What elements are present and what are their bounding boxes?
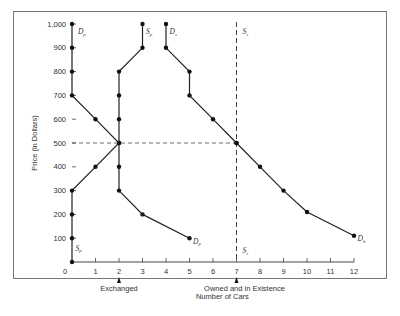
x-tick-label: 6	[211, 267, 215, 276]
data-point	[187, 236, 191, 240]
curve-Ds	[166, 24, 354, 236]
data-point	[258, 165, 262, 169]
data-point	[70, 212, 74, 216]
data-point	[140, 46, 144, 50]
y-tick-label: 500	[53, 139, 66, 148]
curve-label-Sp: Sp	[76, 244, 83, 254]
data-point	[211, 117, 215, 121]
data-point	[70, 260, 74, 264]
x-annotation: Exchanged	[100, 284, 138, 293]
y-tick-label: 300	[53, 186, 66, 195]
curve-label-Ss: Ss	[242, 246, 248, 256]
data-point	[70, 46, 74, 50]
curve-label-Dp: Dp	[192, 237, 201, 247]
data-point	[140, 22, 144, 26]
data-point	[117, 188, 121, 192]
curve-label-Ss: Ss	[242, 27, 248, 37]
x-tick-label: 8	[258, 267, 262, 276]
y-tick-label: 200	[53, 210, 66, 219]
data-point	[70, 188, 74, 192]
y-tick-label: 400	[53, 162, 66, 171]
x-tick-label: 0	[63, 267, 67, 276]
data-point	[70, 69, 74, 73]
data-point	[93, 117, 97, 121]
y-tick-label: 600	[53, 115, 66, 124]
data-point	[117, 165, 121, 169]
x-tick-label: 2	[117, 267, 121, 276]
x-tick-label: 10	[303, 267, 311, 276]
curve-label-Ds: Ds	[169, 27, 177, 37]
data-point	[117, 141, 121, 145]
y-tick-label: 1,000	[47, 20, 66, 29]
x-tick-label: 11	[327, 267, 335, 276]
x-tick-label: 1	[93, 267, 97, 276]
data-point	[164, 22, 168, 26]
y-tick-label: 800	[53, 67, 66, 76]
data-point	[70, 22, 74, 26]
y-tick-label: 100	[53, 234, 66, 243]
x-tick-label: 3	[140, 267, 144, 276]
data-point	[305, 210, 309, 214]
x-tick-label: 7	[234, 267, 238, 276]
data-point	[117, 117, 121, 121]
x-tick-label: 12	[350, 267, 358, 276]
supply-demand-chart: 0123456789101112100200300400500600700800…	[0, 0, 400, 316]
arrow-up-icon	[117, 277, 121, 283]
x-axis-title: Number of Cars	[196, 292, 249, 301]
x-tick-label: 4	[164, 267, 168, 276]
y-tick-label: 900	[53, 43, 66, 52]
curve-label-Sp: Sp	[146, 27, 153, 37]
equilibrium-point	[234, 141, 238, 145]
x-tick-label: 9	[281, 267, 285, 276]
curve-label-Dh: Dh	[357, 234, 366, 244]
curve-label-Dp: Dp	[77, 27, 86, 37]
data-point	[70, 93, 74, 97]
data-point	[117, 93, 121, 97]
data-point	[352, 234, 356, 238]
data-point	[117, 69, 121, 73]
data-point	[281, 188, 285, 192]
data-point	[93, 165, 97, 169]
arrow-up-icon	[235, 277, 239, 283]
y-tick-label: 700	[53, 91, 66, 100]
y-axis-title: Price (in Dollars)	[30, 115, 39, 171]
data-point	[187, 69, 191, 73]
data-point	[140, 212, 144, 216]
data-point	[164, 46, 168, 50]
data-point	[187, 93, 191, 97]
data-point	[70, 236, 74, 240]
curve-Ss_exchange	[119, 24, 190, 238]
x-tick-label: 5	[187, 267, 191, 276]
